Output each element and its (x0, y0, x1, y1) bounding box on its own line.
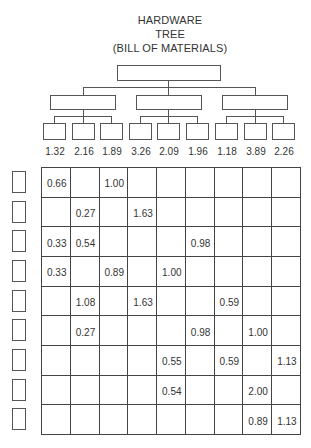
matrix-cell (128, 405, 157, 435)
matrix-cell: 1.00 (157, 256, 186, 286)
matrix-cell (185, 345, 214, 375)
matrix-cell (128, 345, 157, 375)
row-header-box (12, 349, 26, 371)
component-value: 2.09 (154, 146, 184, 158)
matrix-cell (42, 375, 71, 405)
row-header-box (12, 408, 26, 430)
component-value: 1.32 (40, 146, 70, 158)
tree-component-box (100, 123, 123, 140)
matrix-cell: 1.63 (128, 197, 157, 227)
matrix-cell (272, 256, 301, 286)
matrix-cell: 0.59 (214, 286, 243, 316)
matrix-cell (157, 316, 186, 346)
matrix-cell (214, 256, 243, 286)
matrix-cell (185, 256, 214, 286)
matrix-cell (243, 168, 272, 198)
matrix-row: 0.270.981.00 (42, 316, 301, 346)
matrix-cell (157, 405, 186, 435)
matrix-cell (128, 168, 157, 198)
matrix-cell: 1.13 (272, 345, 301, 375)
matrix-cell (128, 316, 157, 346)
matrix-cell: 0.89 (243, 405, 272, 435)
matrix-cell (214, 168, 243, 198)
matrix-cell (99, 197, 128, 227)
row-header-box (12, 379, 26, 401)
tree-component-box (43, 123, 66, 140)
matrix-cell (243, 227, 272, 257)
matrix-cell (99, 345, 128, 375)
matrix-row: 1.081.630.59 (42, 286, 301, 316)
tree-component-box (244, 123, 267, 140)
matrix-cell (157, 227, 186, 257)
tree-assembly-box (136, 95, 202, 110)
connector (83, 87, 84, 95)
component-value: 1.96 (183, 146, 213, 158)
matrix-cell: 0.55 (157, 345, 186, 375)
matrix-cell: 0.98 (185, 316, 214, 346)
component-value: 1.89 (97, 146, 127, 158)
matrix-cell (70, 256, 99, 286)
component-value: 1.18 (212, 146, 242, 158)
row-header-box (12, 319, 26, 341)
matrix-cell (214, 227, 243, 257)
matrix-cell: 1.08 (70, 286, 99, 316)
connector (83, 87, 256, 88)
matrix-cell (42, 197, 71, 227)
component-value: 3.26 (126, 146, 156, 158)
matrix-cell (214, 316, 243, 346)
tree-assembly-box (50, 95, 116, 110)
matrix-row: 0.542.00 (42, 375, 301, 405)
matrix-cell (128, 375, 157, 405)
tree-root-box (117, 65, 221, 81)
matrix-row: 0.550.591.13 (42, 345, 301, 375)
matrix-cell (272, 286, 301, 316)
matrix-cell (157, 286, 186, 316)
matrix-cell (70, 375, 99, 405)
matrix-cell (70, 345, 99, 375)
matrix-cell: 0.33 (42, 227, 71, 257)
matrix-cell (157, 197, 186, 227)
matrix-cell (272, 227, 301, 257)
row-header-box (12, 260, 26, 282)
matrix-cell (42, 345, 71, 375)
matrix-cell (272, 168, 301, 198)
matrix-cell: 1.63 (128, 286, 157, 316)
matrix-cell: 0.27 (70, 316, 99, 346)
matrix-cell (243, 286, 272, 316)
matrix-cell: 0.33 (42, 256, 71, 286)
matrix-cell (128, 256, 157, 286)
matrix-cell (214, 197, 243, 227)
matrix-cell: 0.54 (70, 227, 99, 257)
tree-assembly-box (222, 95, 288, 110)
component-value: 2.26 (269, 146, 299, 158)
title-line-bill-of-materials: (BILL OF MATERIALS) (0, 41, 311, 55)
title-line-hardware: HARDWARE (0, 13, 311, 27)
matrix-cell (185, 197, 214, 227)
tree-component-box (129, 123, 152, 140)
matrix-cell: 0.27 (70, 197, 99, 227)
tree-component-box (72, 123, 95, 140)
allocation-matrix: 0.661.000.271.630.330.540.980.330.891.00… (41, 167, 301, 435)
matrix-row: 0.271.63 (42, 197, 301, 227)
matrix-cell (272, 316, 301, 346)
matrix-cell: 1.00 (243, 316, 272, 346)
tree-component-box (215, 123, 238, 140)
matrix-cell (157, 168, 186, 198)
matrix-cell (42, 316, 71, 346)
row-header-box (12, 201, 26, 223)
matrix-cell (70, 168, 99, 198)
matrix-cell (42, 286, 71, 316)
matrix-cell (272, 197, 301, 227)
matrix-cell (185, 286, 214, 316)
component-value: 3.89 (241, 146, 271, 158)
matrix-cell: 0.54 (157, 375, 186, 405)
connector (255, 87, 256, 95)
matrix-cell (99, 316, 128, 346)
matrix-cell (99, 227, 128, 257)
matrix-cell: 0.98 (185, 227, 214, 257)
matrix-cell (99, 375, 128, 405)
matrix-cell (185, 168, 214, 198)
matrix-cell: 1.00 (99, 168, 128, 198)
row-header-box (12, 230, 26, 252)
matrix-cell: 0.66 (42, 168, 71, 198)
